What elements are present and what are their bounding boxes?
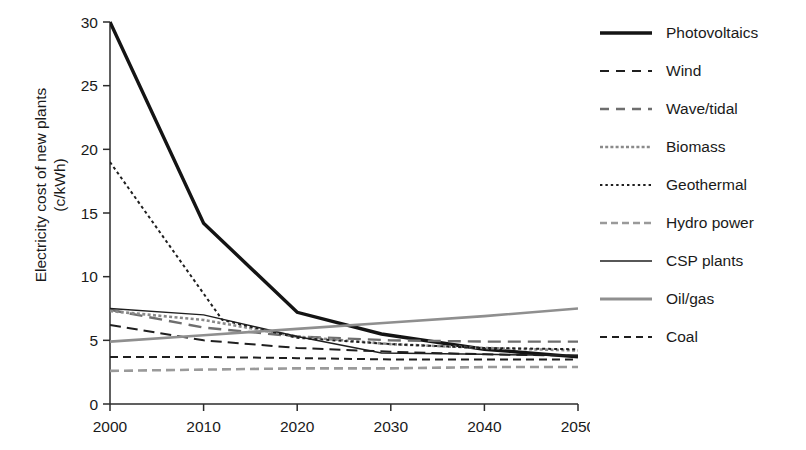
series-line-biomass <box>110 311 578 350</box>
chart-figure: Electricity cost of new plants (c/kWh) 0… <box>0 0 806 450</box>
y-tick-label: 10 <box>81 268 99 285</box>
x-tick-label: 2030 <box>374 418 409 435</box>
legend-swatch-icon <box>600 140 652 154</box>
legend-swatch-icon <box>600 330 652 344</box>
legend-swatch-icon <box>600 26 652 40</box>
x-tick-label: 2010 <box>186 418 221 435</box>
legend-item-label: Coal <box>666 329 698 345</box>
legend-item-hydro-power[interactable]: Hydro power <box>600 204 800 242</box>
plot-area: 051015202530 200020102020203020402050 <box>0 0 590 450</box>
y-axis: 051015202530 <box>81 14 110 413</box>
legend-swatch-icon <box>600 102 652 116</box>
x-tick-label: 2020 <box>280 418 315 435</box>
x-axis: 200020102020203020402050 <box>93 404 590 435</box>
legend-swatch-icon <box>600 178 652 192</box>
legend-swatch-icon <box>600 292 652 306</box>
legend-item-label: Wind <box>666 63 701 79</box>
legend-item-label: Wave/tidal <box>666 101 738 117</box>
series-layer <box>110 22 578 371</box>
series-clip-group <box>110 22 578 371</box>
y-tick-label: 15 <box>81 205 98 222</box>
y-tick-label: 25 <box>81 77 98 94</box>
chart-legend: PhotovoltaicsWindWave/tidalBiomassGeothe… <box>600 14 800 356</box>
legend-item-label: Geothermal <box>666 177 747 193</box>
legend-item-label: Hydro power <box>666 215 754 231</box>
x-tick-label: 2000 <box>93 418 128 435</box>
legend-item-label: Photovoltaics <box>666 25 758 41</box>
y-tick-label: 20 <box>81 141 99 158</box>
y-tick-label: 30 <box>81 14 99 31</box>
x-tick-label: 2050 <box>561 418 590 435</box>
series-line-coal <box>110 357 578 360</box>
legend-item-coal[interactable]: Coal <box>600 318 800 356</box>
x-tick-label: 2040 <box>467 418 502 435</box>
plot-svg: 051015202530 200020102020203020402050 <box>0 0 590 450</box>
series-line-geothermal <box>110 162 578 349</box>
legend-item-oil-gas[interactable]: Oil/gas <box>600 280 800 318</box>
legend-item-wave-tidal[interactable]: Wave/tidal <box>600 90 800 128</box>
y-tick-label: 5 <box>89 332 98 349</box>
legend-item-label: Oil/gas <box>666 291 714 307</box>
legend-item-geothermal[interactable]: Geothermal <box>600 166 800 204</box>
legend-swatch-icon <box>600 64 652 78</box>
legend-swatch-icon <box>600 216 652 230</box>
legend-swatch-icon <box>600 254 652 268</box>
legend-item-csp-plants[interactable]: CSP plants <box>600 242 800 280</box>
legend-item-biomass[interactable]: Biomass <box>600 128 800 166</box>
series-line-hydro-power <box>110 367 578 371</box>
legend-item-label: CSP plants <box>666 253 743 269</box>
legend-item-photovoltaics[interactable]: Photovoltaics <box>600 14 800 52</box>
y-tick-label: 0 <box>89 396 98 413</box>
legend-item-wind[interactable]: Wind <box>600 52 800 90</box>
legend-item-label: Biomass <box>666 139 725 155</box>
series-line-photovoltaics <box>110 22 578 357</box>
